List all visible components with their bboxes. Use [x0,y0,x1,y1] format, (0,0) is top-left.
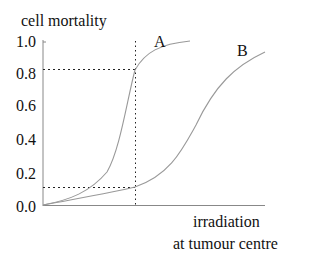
curve-a-label: A [154,34,166,50]
curve-a [43,41,190,205]
x-axis-title-line1: irradiation [193,214,260,230]
x-axis-title-line2: at tumour centre [173,236,278,252]
curve-b [43,52,265,205]
curve-b-label: B [237,43,248,59]
